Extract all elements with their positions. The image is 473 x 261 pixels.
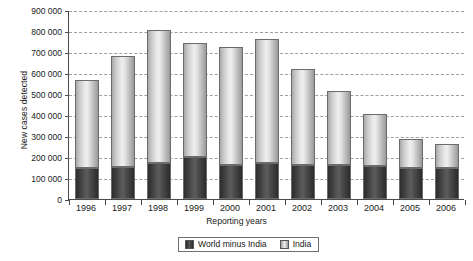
- legend-item-world-minus-india: World minus India: [185, 240, 267, 249]
- bar-segment-world-minus-india-2000: [219, 165, 243, 199]
- y-axis-tick-label: 200 000: [31, 153, 62, 163]
- bar-segment-world-minus-india-2005: [399, 168, 423, 200]
- plot-area: [68, 11, 464, 200]
- bar-1998: [147, 30, 171, 199]
- y-axis-tick: [65, 95, 69, 96]
- bar-2003: [327, 91, 351, 199]
- bar-2000: [219, 47, 243, 199]
- bar-2005: [399, 139, 423, 199]
- bar-2001: [255, 39, 279, 199]
- y-axis-tick-label: 600 000: [31, 69, 62, 79]
- bar-segment-world-minus-india-2003: [327, 165, 351, 199]
- bar-segment-india-1997: [111, 56, 135, 168]
- bar-segment-world-minus-india-2006: [435, 168, 459, 200]
- legend-swatch-india: [280, 240, 289, 249]
- legend-swatch-world-minus-india: [185, 240, 194, 249]
- y-axis-tick: [65, 11, 69, 12]
- y-axis-tick-label: 800 000: [31, 27, 62, 37]
- bar-segment-world-minus-india-1997: [111, 167, 135, 199]
- bar-segment-india-2002: [291, 69, 315, 165]
- x-axis-title: Reporting years: [0, 216, 473, 226]
- bar-segment-india-2001: [255, 39, 279, 163]
- y-axis-tick: [65, 74, 69, 75]
- y-axis-tick: [65, 179, 69, 180]
- gridline: [69, 11, 464, 12]
- y-axis-title: New cases detected: [19, 30, 29, 190]
- bar-segment-world-minus-india-1999: [183, 157, 207, 199]
- bar-segment-india-2004: [363, 114, 387, 166]
- bar-segment-world-minus-india-1998: [147, 163, 171, 199]
- gridline: [69, 32, 464, 33]
- bar-2004: [363, 114, 387, 199]
- y-axis-tick-label: 300 000: [31, 132, 62, 142]
- legend-label-india: India: [293, 240, 312, 249]
- bar-segment-india-2003: [327, 91, 351, 165]
- bar-2006: [435, 144, 459, 199]
- y-axis-tick: [65, 32, 69, 33]
- y-axis-tick-label: 700 000: [31, 48, 62, 58]
- bar-1999: [183, 43, 207, 199]
- legend-label-world-minus-india: World minus India: [198, 240, 267, 249]
- bar-segment-world-minus-india-2004: [363, 166, 387, 199]
- bar-segment-india-1998: [147, 30, 171, 163]
- y-axis-tick: [65, 116, 69, 117]
- bar-chart: New cases detected Reporting years World…: [0, 0, 473, 261]
- bar-segment-world-minus-india-2002: [291, 165, 315, 199]
- x-axis-label-2006: 2006: [424, 203, 468, 213]
- bar-segment-india-1996: [75, 80, 99, 168]
- chart-legend: World minus India India: [178, 237, 319, 252]
- y-axis-tick: [65, 53, 69, 54]
- bar-1996: [75, 80, 99, 199]
- y-axis-tick-label: 400 000: [31, 111, 62, 121]
- bar-segment-india-1999: [183, 43, 207, 157]
- legend-item-india: India: [280, 240, 312, 249]
- bar-segment-india-2005: [399, 139, 423, 168]
- bar-segment-india-2000: [219, 47, 243, 165]
- bar-1997: [111, 56, 135, 199]
- bar-segment-world-minus-india-2001: [255, 163, 279, 199]
- bar-segment-world-minus-india-1996: [75, 168, 99, 199]
- y-axis-tick-label: 100 000: [31, 174, 62, 184]
- y-axis-tick-label: 0: [57, 195, 62, 205]
- bar-segment-india-2006: [435, 144, 459, 168]
- y-axis-tick-label: 500 000: [31, 90, 62, 100]
- bar-2002: [291, 69, 315, 199]
- y-axis-tick: [65, 158, 69, 159]
- y-axis-tick: [65, 137, 69, 138]
- y-axis-tick-label: 900 000: [31, 6, 62, 16]
